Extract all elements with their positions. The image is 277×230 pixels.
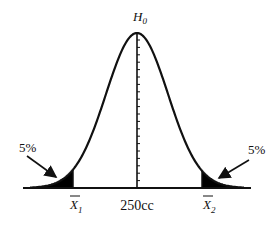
mean-value-label: 250cc — [120, 198, 153, 213]
x1-symbol: X1 — [69, 197, 82, 215]
x2-symbol: X2 — [202, 197, 216, 215]
right-tail-percent: 5% — [248, 142, 266, 157]
hypothesis-label: H0 — [132, 9, 147, 26]
left-critical-label: X1 — [69, 196, 82, 215]
left-tail-arrow — [27, 156, 56, 177]
normal-curve-diagram: 5% 5% H0 250cc X1 X2 — [0, 0, 277, 230]
right-critical-label: X2 — [202, 196, 216, 215]
diagram-canvas: 5% 5% H0 250cc X1 X2 — [0, 0, 277, 230]
right-tail-arrow — [219, 160, 249, 178]
left-tail-percent: 5% — [19, 140, 37, 155]
